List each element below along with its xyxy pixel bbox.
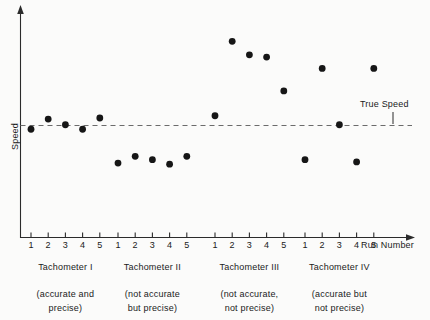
plot-canvas xyxy=(0,0,430,320)
data-point xyxy=(336,121,343,128)
x-tick-label: 2 xyxy=(46,240,51,250)
data-point xyxy=(132,153,139,160)
data-point xyxy=(263,54,270,61)
group-description-line2: but precise) xyxy=(128,302,177,314)
data-point xyxy=(183,153,190,160)
data-point xyxy=(370,65,377,72)
x-tick-label: 2 xyxy=(230,240,235,250)
group-title: Tachometer III xyxy=(219,262,279,272)
data-point xyxy=(280,88,287,95)
x-tick-label: 2 xyxy=(133,240,138,250)
data-point xyxy=(115,160,122,167)
data-point xyxy=(62,121,69,128)
x-tick-label: 5 xyxy=(371,240,376,250)
x-tick-label: 3 xyxy=(150,240,155,250)
scatter-chart-figure: Speed Run Number True Speed 12345Tachome… xyxy=(0,0,430,320)
x-tick-label: 4 xyxy=(264,240,269,250)
data-point xyxy=(28,126,35,133)
data-point xyxy=(149,156,156,163)
group-description-line1: (accurate and xyxy=(37,288,95,300)
group-description-line2: not precise) xyxy=(315,302,364,314)
x-tick-label: 4 xyxy=(167,240,172,250)
group-description-line1: (accurate but xyxy=(312,288,367,300)
group-title: Tachometer II xyxy=(124,262,181,272)
x-tick-label: 3 xyxy=(337,240,342,250)
true-speed-annotation: True Speed xyxy=(360,99,409,109)
group-description-line1: (not accurate xyxy=(125,288,180,300)
x-tick-label: 4 xyxy=(354,240,359,250)
x-tick-label: 1 xyxy=(302,240,307,250)
x-tick-label: 1 xyxy=(28,240,33,250)
x-tick-label: 1 xyxy=(115,240,120,250)
data-point xyxy=(166,161,173,168)
data-point xyxy=(246,51,253,58)
x-tick-label: 2 xyxy=(320,240,325,250)
y-axis-title: Speed xyxy=(10,123,20,150)
x-tick-label: 1 xyxy=(212,240,217,250)
x-tick-label: 3 xyxy=(247,240,252,250)
group-description-line2: not precise) xyxy=(225,302,274,314)
group-description-line2: precise) xyxy=(49,302,83,314)
data-point xyxy=(79,126,86,133)
x-tick-label: 5 xyxy=(97,240,102,250)
data-point xyxy=(96,115,103,122)
x-tick-label: 3 xyxy=(63,240,68,250)
group-title: Tachometer I xyxy=(38,262,92,272)
data-point xyxy=(319,65,326,72)
x-axis-ticks xyxy=(31,233,374,238)
data-point xyxy=(302,156,309,163)
x-tick-label: 5 xyxy=(184,240,189,250)
data-markers xyxy=(28,38,378,168)
group-description-line1: (not accurate, xyxy=(220,288,278,300)
data-point xyxy=(212,112,219,119)
x-axis-title: Run Number xyxy=(361,240,414,250)
y-axis xyxy=(17,5,24,238)
data-point xyxy=(229,38,236,45)
data-point xyxy=(353,159,360,166)
group-title: Tachometer IV xyxy=(309,262,370,272)
x-tick-label: 4 xyxy=(80,240,85,250)
x-tick-label: 5 xyxy=(281,240,286,250)
data-point xyxy=(45,116,52,123)
